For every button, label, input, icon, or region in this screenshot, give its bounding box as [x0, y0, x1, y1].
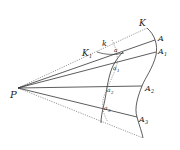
label-A3-sub: 3 [145, 119, 148, 125]
ray-P-bottom-dotted [18, 88, 143, 138]
label-a1-sub: 1 [117, 68, 120, 73]
label-a2-sub: 2 [110, 90, 114, 95]
inner-curve [101, 52, 123, 123]
label-A2: A [144, 84, 151, 93]
diagram-canvas: P K K 1 k A A 1 A 2 A 3 a a 1 a 2 a 3 [0, 0, 180, 150]
label-K: K [138, 18, 147, 28]
ray-P-A3 [18, 88, 137, 117]
label-K1-sub: 1 [89, 53, 92, 59]
label-A2-sub: 2 [150, 88, 154, 94]
projection-diagram: P K K 1 k A A 1 A 2 A 3 a a 1 a 2 a 3 [0, 0, 180, 150]
label-A: A [157, 34, 164, 43]
ray-P-K-dotted [18, 28, 147, 88]
label-a: a [114, 46, 118, 53]
label-A1: A [157, 47, 164, 56]
label-P: P [9, 89, 17, 100]
label-k: k [102, 39, 107, 48]
ray-P-A2 [18, 86, 142, 88]
label-A3: A [138, 115, 145, 124]
label-A1-sub: 1 [164, 51, 167, 57]
